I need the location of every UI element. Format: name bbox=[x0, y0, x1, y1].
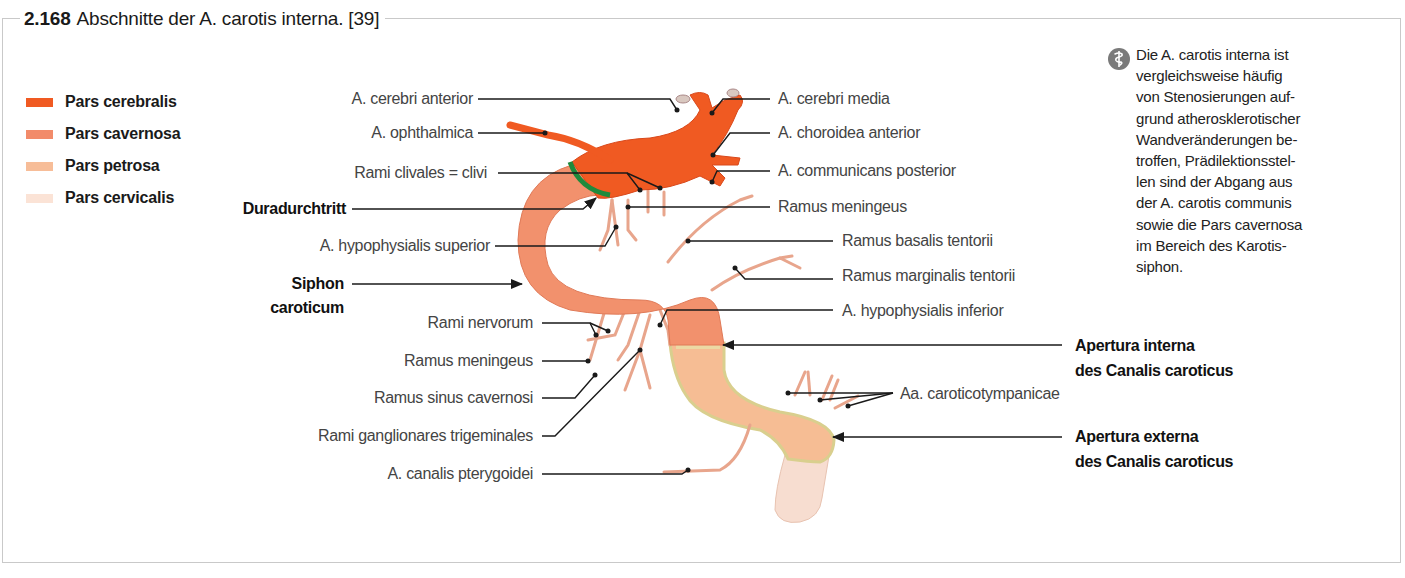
label-choroidea-anterior: A. choroidea anterior bbox=[778, 123, 920, 143]
a-ophthalmica bbox=[510, 125, 610, 160]
label-canalis-pterygoidei: A. canalis pterygoidei bbox=[388, 464, 534, 484]
pars-petrosa bbox=[670, 343, 834, 462]
label-hypophysialis-superior: A. hypophysialis superior bbox=[320, 236, 490, 256]
label-apertura-externa: Apertura externa bbox=[1075, 427, 1198, 447]
label-ramus-sinus-cavernosi: Ramus sinus cavernosi bbox=[374, 388, 533, 408]
label-duradurchtritt: Duradurchtritt bbox=[243, 199, 346, 219]
label-apertura-interna: Apertura interna bbox=[1075, 336, 1195, 356]
pars-cerebralis bbox=[572, 93, 743, 199]
label-ramus-meningeus-lower: Ramus meningeus bbox=[404, 351, 533, 371]
label-cerebri-anterior: A. cerebri anterior bbox=[352, 89, 473, 109]
label-marginalis-tentorii: Ramus marginalis tentorii bbox=[842, 266, 1015, 286]
label-caroticotympanicae: Aa. caroticotympanicae bbox=[900, 384, 1060, 404]
label-rami-clivales: Rami clivales = clivi bbox=[354, 163, 487, 183]
label-cerebri-media: A. cerebri media bbox=[778, 89, 890, 109]
label-ramus-meningeus-upper: Ramus meningeus bbox=[778, 197, 907, 217]
label-rami-ganglionares: Rami ganglionares trigeminales bbox=[318, 426, 533, 446]
carotis-illustration bbox=[0, 0, 1405, 578]
label-siphon: Siphon bbox=[292, 274, 344, 294]
label-rami-nervorum: Rami nervorum bbox=[428, 313, 533, 333]
label-hypophysialis-inferior: A. hypophysialis inferior bbox=[842, 301, 1003, 321]
label-communicans-posterior: A. communicans posterior bbox=[778, 161, 956, 181]
label-caroticum: caroticum bbox=[270, 298, 344, 318]
label-apertura-externa-2: des Canalis caroticus bbox=[1075, 452, 1233, 472]
label-apertura-interna-2: des Canalis caroticus bbox=[1075, 361, 1233, 381]
label-ophthalmica: A. ophthalmica bbox=[371, 123, 473, 143]
label-basalis-tentorii: Ramus basalis tentorii bbox=[842, 231, 993, 251]
